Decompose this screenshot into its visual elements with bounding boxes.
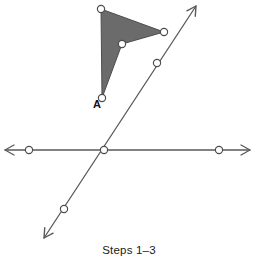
vertex-label-a: A: [93, 98, 101, 110]
dart-polygon-shape: [101, 9, 164, 98]
polygon-vertex-inner: [118, 40, 125, 47]
intersection-point: [100, 146, 107, 153]
figure-container: A Steps 1–3: [0, 0, 258, 266]
polygon-vertex-top: [97, 5, 104, 12]
horizontal-right-point: [215, 146, 222, 153]
figure-caption: Steps 1–3: [0, 244, 258, 256]
horizontal-left-point: [25, 146, 32, 153]
point-labels-group: A: [93, 98, 101, 110]
diagonal-upper-point: [153, 59, 160, 66]
geometry-diagram: A: [0, 0, 258, 266]
polygon-vertex-right: [160, 28, 167, 35]
diagonal-lower-point: [60, 205, 67, 212]
